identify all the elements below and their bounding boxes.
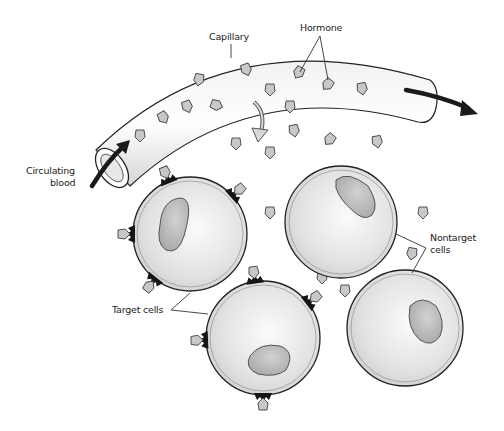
circulating-blood-label-line2: blood [50,177,75,188]
hormone-label: Hormone [300,22,343,33]
hormone-molecule [340,285,350,297]
hormone-molecule [265,207,275,219]
target-cells-label-group: Target cells [111,293,208,315]
capillary-label-group: Capillary [209,31,250,58]
receptor-with-bound-hormone [118,225,135,243]
hormone-molecule [285,101,295,113]
nontarget-cell-2 [347,270,463,386]
capillary-body [96,61,437,186]
bound-hormone [191,335,203,345]
hormone-molecule [371,135,383,149]
capillary-label: Capillary [209,31,250,42]
bound-hormone [248,266,260,279]
hormone-molecule [418,207,428,219]
receptor-with-bound-hormone [244,265,264,284]
hormone-molecule [231,138,241,150]
target-cells-label: Target cells [111,304,164,315]
nontarget-cell-1 [285,166,397,278]
bound-hormone [258,398,268,410]
hormone-molecule [406,247,418,261]
receptor-with-bound-hormone [191,331,209,350]
hormone-molecule [322,132,337,148]
nontarget-cells-label-line2: cells [430,244,451,255]
hormone-diagram: Capillary Hormone Circulating blood Targ… [0,0,504,431]
circulating-blood-label-group: Circulating blood [26,165,75,188]
bound-hormone [118,229,130,239]
hormone-molecule [265,147,275,159]
hormone-molecule [288,124,300,138]
circulating-blood-label-line1: Circulating [26,165,75,176]
receptor-with-bound-hormone [254,393,272,410]
nontarget-cells-label-line1: Nontarget [430,232,476,243]
